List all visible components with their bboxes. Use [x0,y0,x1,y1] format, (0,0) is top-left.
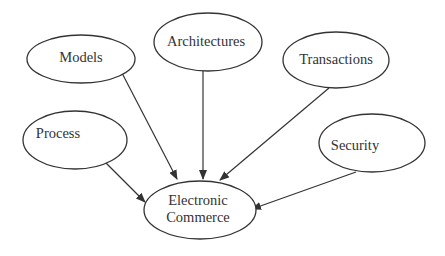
edge-security-to-ecommerce [252,172,356,209]
node-process-label: Process [36,125,81,141]
node-security: Security [319,114,425,172]
edge-process-to-ecommerce [106,163,145,202]
node-electronic-commerce-label-line2: Commerce [166,209,230,225]
node-electronic-commerce: Electronic Commerce [144,181,256,239]
node-transactions: Transactions [283,32,389,88]
edge-models-to-ecommerce [123,75,177,179]
node-models: Models [27,35,135,83]
node-process: Process [23,111,127,169]
diagram-svg: Models Architectures Transactions Proces… [0,0,445,256]
node-architectures-label: Architectures [167,33,245,49]
edge-transactions-to-ecommerce [220,88,329,180]
node-electronic-commerce-label-line1: Electronic [168,192,228,208]
node-security-label: Security [331,137,380,153]
node-models-label: Models [59,49,103,65]
concept-diagram: Models Architectures Transactions Proces… [0,0,445,256]
node-architectures: Architectures [154,13,262,71]
node-transactions-label: Transactions [299,51,373,67]
